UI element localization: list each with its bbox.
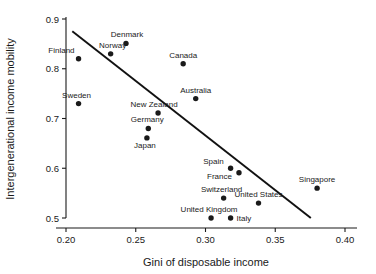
data-point-label: France (207, 172, 232, 181)
data-point-label: Germany (131, 115, 164, 124)
data-point-label: New Zealand (130, 100, 177, 109)
data-point (256, 200, 261, 205)
x-tick-label: 0.35 (266, 234, 285, 245)
data-point (193, 96, 198, 101)
data-point (228, 215, 233, 220)
axis-ticks (62, 19, 345, 232)
data-point-label: Singapore (299, 175, 336, 184)
x-tick-label: 0.40 (336, 234, 355, 245)
data-point-label: Canada (169, 51, 198, 60)
y-tick-label: 0.7 (46, 113, 59, 124)
data-point-label: Sweden (62, 91, 91, 100)
data-point (144, 135, 149, 140)
data-point-label: Australia (180, 86, 212, 95)
data-point (180, 61, 185, 66)
plot-area: 0.50.60.70.80.90.200.250.300.350.40 Finl… (0, 0, 376, 274)
data-point (236, 170, 241, 175)
y-tick-label: 0.9 (46, 14, 59, 25)
y-tick-label: 0.8 (46, 63, 59, 74)
y-tick-label: 0.5 (46, 213, 59, 224)
data-point (76, 101, 81, 106)
y-axis-title: Intergenerational income mobility (4, 38, 16, 200)
x-tick-label: 0.30 (196, 234, 215, 245)
x-tick-label: 0.25 (127, 234, 146, 245)
x-tick-label: 0.20 (57, 234, 76, 245)
data-point (208, 215, 213, 220)
data-point (108, 51, 113, 56)
data-point-label: Norway (99, 41, 126, 50)
data-point-label: Spain (203, 157, 223, 166)
data-point-labels: FinlandNorwayDenmarkCanadaSwedenAustrali… (48, 30, 336, 223)
data-point-label: United Kingdom (181, 205, 238, 214)
data-point (76, 56, 81, 61)
data-point-label: United States (234, 190, 282, 199)
data-point (221, 195, 226, 200)
y-tick-label: 0.6 (46, 163, 59, 174)
data-point (146, 126, 151, 131)
data-point (228, 166, 233, 171)
data-point-label: Italy (237, 214, 252, 223)
x-axis-title: Gini of disposable income (143, 256, 269, 268)
data-point-label: Denmark (111, 30, 144, 39)
data-point-label: Japan (134, 141, 156, 150)
data-point-label: Finland (48, 46, 74, 55)
scatter-chart: 0.50.60.70.80.90.200.250.300.350.40 Finl… (0, 0, 376, 274)
data-point (314, 185, 319, 190)
